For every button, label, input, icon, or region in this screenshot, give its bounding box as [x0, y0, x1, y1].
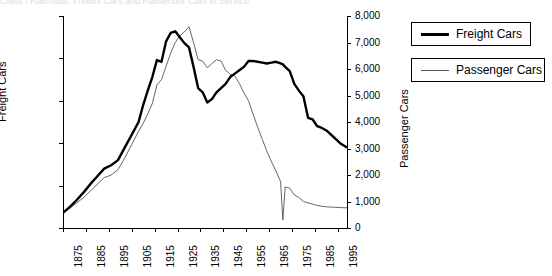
x-axis-tick	[246, 228, 247, 232]
x-axis-tick-label: 1955	[257, 245, 267, 267]
right-axis-tick-label: 7,000	[355, 38, 380, 48]
x-axis-tick-label: 1925	[189, 245, 199, 267]
x-axis-tick	[109, 228, 110, 232]
x-axis-tick	[132, 228, 133, 232]
clipped-chart-title: Class I Railroads: Freight Cars and Pass…	[0, 0, 400, 4]
left-axis-tick	[59, 101, 63, 102]
passenger-cars-line	[63, 27, 347, 220]
right-axis-tick	[347, 149, 351, 150]
right-axis-tick	[347, 175, 351, 176]
right-axis-tick-label: 6,000	[355, 64, 380, 74]
chart-figure: Class I Railroads: Freight Cars and Pass…	[0, 0, 552, 276]
left-axis-tick	[59, 16, 63, 17]
x-axis-tick-label: 1875	[74, 245, 84, 267]
legend-swatch-freight-line	[421, 33, 449, 36]
x-axis-tick-label: 1945	[234, 245, 244, 267]
x-axis-tick-label: 1965	[280, 245, 290, 267]
right-axis-title: Passenger Cars	[398, 89, 410, 168]
freight-cars-line	[63, 31, 347, 212]
left-axis-title: Freight Cars	[0, 61, 8, 122]
x-axis-tick	[178, 228, 179, 232]
x-axis-tick	[200, 228, 201, 232]
left-axis-tick	[59, 143, 63, 144]
left-axis-line	[63, 16, 64, 229]
x-axis-tick	[338, 228, 339, 232]
right-axis-tick-label: 3,000	[355, 144, 380, 154]
legend-label-freight: Freight Cars	[456, 27, 522, 41]
right-axis-tick	[347, 16, 351, 17]
x-axis-tick	[315, 228, 316, 232]
left-axis-tick	[59, 186, 63, 187]
x-axis-tick-label: 1885	[97, 245, 107, 267]
x-axis-tick	[292, 228, 293, 232]
legend-item-passenger-cars[interactable]: Passenger Cars	[411, 58, 545, 82]
bottom-axis-line	[63, 228, 348, 229]
x-axis-tick	[86, 228, 87, 232]
series-lines	[63, 16, 348, 229]
x-axis-tick-label: 1995	[349, 245, 359, 267]
right-axis-tick	[347, 69, 351, 70]
x-axis-tick-label: 1905	[143, 245, 153, 267]
plot-area	[63, 16, 348, 229]
x-axis-tick-label: 1985	[326, 245, 336, 267]
legend-item-freight-cars[interactable]: Freight Cars	[411, 22, 531, 46]
right-axis-tick-label: 1,000	[355, 197, 380, 207]
x-axis-tick	[63, 228, 64, 232]
right-axis-tick-label: 0	[355, 223, 361, 233]
right-axis-tick-label: 5,000	[355, 91, 380, 101]
right-axis-tick	[347, 96, 351, 97]
x-axis-tick-label: 1935	[212, 245, 222, 267]
right-axis-tick	[347, 202, 351, 203]
left-axis-tick	[59, 58, 63, 59]
x-axis-tick-label: 1975	[303, 245, 313, 267]
right-axis-tick-label: 2,000	[355, 170, 380, 180]
right-axis-tick	[347, 43, 351, 44]
right-axis-tick-label: 8,000	[355, 11, 380, 21]
right-axis-tick	[347, 228, 351, 229]
x-axis-tick	[223, 228, 224, 232]
x-axis-tick-label: 1915	[166, 245, 176, 267]
legend-label-passenger: Passenger Cars	[456, 63, 542, 77]
legend-swatch-passenger-line	[421, 70, 449, 71]
x-axis-tick	[155, 228, 156, 232]
right-axis-tick-label: 4,000	[355, 117, 380, 127]
x-axis-tick	[269, 228, 270, 232]
x-axis-tick-label: 1895	[120, 245, 130, 267]
right-axis-tick	[347, 122, 351, 123]
